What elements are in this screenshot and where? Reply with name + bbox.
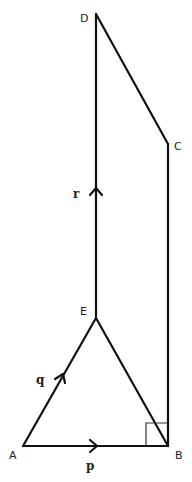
point-label-C: C <box>174 140 182 153</box>
vector-label-p: p <box>86 459 94 473</box>
vector-label-r: r <box>73 187 80 201</box>
point-label-B: B <box>175 449 183 462</box>
point-label-E: E <box>80 305 87 318</box>
point-label-D: D <box>80 12 88 25</box>
vector-geometry-diagram: D C E A B r q p <box>0 0 192 482</box>
point-label-A: A <box>9 449 17 462</box>
vector-label-q: q <box>36 373 45 387</box>
segment-DC <box>96 14 168 144</box>
segment-EB <box>96 318 168 446</box>
segment-AE <box>23 318 96 446</box>
